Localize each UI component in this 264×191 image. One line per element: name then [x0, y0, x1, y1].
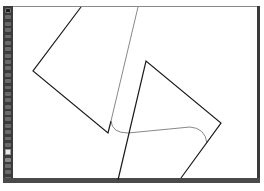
- sprayer-icon[interactable]: [5, 137, 11, 141]
- shape-builder-icon[interactable]: [5, 98, 11, 102]
- rotate-icon[interactable]: [5, 79, 11, 83]
- status-bar: [3, 178, 260, 183]
- hollow-arrow-icon[interactable]: [5, 15, 11, 19]
- perspective-icon[interactable]: [5, 105, 11, 109]
- eyedropper-icon[interactable]: [5, 124, 11, 128]
- lasso-icon[interactable]: [5, 28, 11, 32]
- artboard-canvas[interactable]: [13, 7, 257, 178]
- brush-icon[interactable]: [5, 60, 11, 64]
- hand-icon[interactable]: [5, 170, 11, 174]
- eraser-icon[interactable]: [5, 73, 11, 77]
- graph-icon[interactable]: [5, 143, 11, 147]
- artboard-icon[interactable]: [5, 164, 11, 168]
- stroke-swatch-icon[interactable]: [5, 158, 11, 162]
- gradient-icon[interactable]: [5, 117, 11, 121]
- line-icon[interactable]: [5, 47, 11, 51]
- blend-icon[interactable]: [5, 130, 11, 134]
- vector-editor-window: [0, 0, 264, 191]
- width-icon[interactable]: [5, 92, 11, 96]
- scale-icon[interactable]: [5, 86, 11, 90]
- tools-panel: [3, 6, 13, 182]
- type-icon[interactable]: [5, 41, 11, 45]
- pencil-icon[interactable]: [5, 66, 11, 70]
- arrow-icon[interactable]: [5, 8, 11, 13]
- vertical-scrollbar[interactable]: [257, 6, 260, 183]
- mesh-icon[interactable]: [5, 111, 11, 115]
- rectangle-icon[interactable]: [5, 54, 11, 58]
- fill-swatch-icon[interactable]: [5, 149, 11, 155]
- wand-icon[interactable]: [5, 22, 11, 26]
- pen-icon[interactable]: [5, 35, 11, 39]
